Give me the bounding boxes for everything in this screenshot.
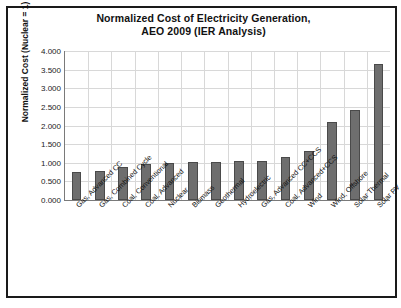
y-axis-tick-label: 3.500: [27, 65, 61, 74]
gridline-vertical: [181, 51, 182, 200]
chart-title-line-1: Normalized Cost of Electricity Generatio…: [31, 12, 376, 25]
y-axis-tick-label: 1.000: [27, 158, 61, 167]
x-axis-category-labels: Gas, Advanced CCGas, Combined CycleCoal,…: [64, 203, 389, 303]
y-axis-tick-label: 2.000: [27, 121, 61, 130]
gridline-vertical: [367, 51, 368, 200]
y-axis-tick-label: 3.000: [27, 84, 61, 93]
y-axis-tick-label: 0.500: [27, 177, 61, 186]
chart-title-line-2: AEO 2009 (IER Analysis): [31, 25, 376, 38]
y-axis-tick-label: 0.000: [27, 196, 61, 205]
gridline-vertical: [135, 51, 136, 200]
gridline-vertical: [88, 51, 89, 200]
gridline-vertical: [274, 51, 275, 200]
gridline-vertical: [228, 51, 229, 200]
gridline-vertical: [251, 51, 252, 200]
y-axis-tick-labels: 0.0000.5001.0001.5002.0002.5003.0003.500…: [23, 51, 61, 200]
chart-title: Normalized Cost of Electricity Generatio…: [31, 12, 376, 38]
y-axis-tick-label: 1.500: [27, 140, 61, 149]
bar: [211, 162, 221, 200]
gridline-vertical: [344, 51, 345, 200]
gridline-vertical: [204, 51, 205, 200]
y-axis-tick-label: 2.500: [27, 102, 61, 111]
chart-figure: Normalized Cost of Electricity Generatio…: [0, 0, 401, 308]
gridline-vertical: [158, 51, 159, 200]
gridline-vertical: [297, 51, 298, 200]
bar: [188, 162, 198, 200]
y-axis-tick-label: 4.000: [27, 47, 61, 56]
plot-area: [64, 51, 390, 201]
